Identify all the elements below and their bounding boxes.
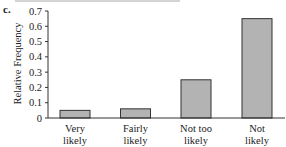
y-tick-label: 0.6 xyxy=(29,21,42,32)
bar xyxy=(242,19,272,118)
y-tick-label: 0.7 xyxy=(29,6,42,17)
x-category-label: Fairly xyxy=(123,123,149,134)
y-tick-label: 0.1 xyxy=(29,97,42,108)
x-category-label: Not too xyxy=(180,123,212,134)
y-tick-label: 0.4 xyxy=(29,51,43,62)
y-tick-label: 0.2 xyxy=(29,82,42,93)
bars xyxy=(60,19,272,118)
y-tick-label: 0 xyxy=(37,113,42,124)
x-category-label: likely xyxy=(124,135,149,146)
bar xyxy=(121,109,151,118)
y-tick-label: 0.3 xyxy=(29,67,42,78)
bar xyxy=(60,110,90,118)
x-category-label: likely xyxy=(63,135,88,146)
y-axis: 00.10.20.30.40.50.60.7 xyxy=(29,6,48,124)
x-category-label: likely xyxy=(184,135,209,146)
y-tick-label: 0.5 xyxy=(29,36,42,47)
bar xyxy=(181,80,211,118)
x-category-label: likely xyxy=(245,135,270,146)
x-category-label: Very xyxy=(65,123,86,134)
x-axis: VerylikelyFairlylikelyNot toolikelyNotli… xyxy=(48,118,285,146)
x-category-label: Not xyxy=(249,123,265,134)
bar-chart: 00.10.20.30.40.50.60.7 VerylikelyFairlyl… xyxy=(0,0,286,147)
